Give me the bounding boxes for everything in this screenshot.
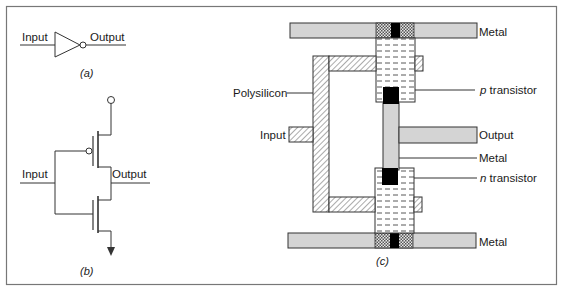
- polysilicon-vertical: [313, 56, 329, 212]
- polysilicon-top-arm: [329, 56, 376, 71]
- metal-output-arm: [399, 127, 477, 143]
- panel-a-input-label: Input: [22, 31, 48, 43]
- panel-b: Input Output (b): [20, 97, 150, 278]
- label-metal-top: Metal: [479, 26, 507, 38]
- panel-a: Input Output (a): [20, 31, 126, 79]
- p-contact: [383, 87, 399, 104]
- polysilicon-input-stub: [289, 127, 313, 142]
- panel-a-output-label: Output: [90, 31, 125, 43]
- label-n-transistor: n transistor: [480, 172, 537, 184]
- inverter-triangle-icon: [55, 32, 80, 57]
- vdd-terminal-icon: [108, 97, 115, 104]
- panel-b-caption: (b): [80, 265, 94, 277]
- inverter-bubble-icon: [80, 42, 86, 48]
- n-contact: [382, 168, 398, 185]
- panel-c-caption: (c): [376, 255, 389, 267]
- metal-output-vertical: [383, 103, 399, 170]
- label-p-transistor: p transistor: [479, 84, 537, 96]
- pmos-gate-bubble-icon: [86, 148, 92, 154]
- label-output: Output: [479, 129, 514, 141]
- panel-b-output-label: Output: [112, 168, 147, 180]
- panel-b-input-label: Input: [22, 168, 48, 180]
- label-metal-mid: Metal: [479, 152, 507, 164]
- figure-canvas: Input Output (a) Input Output: [0, 0, 562, 288]
- ground-arrow-icon: [107, 247, 115, 256]
- label-metal-bottom: Metal: [479, 236, 507, 248]
- panel-a-caption: (a): [80, 67, 94, 79]
- polysilicon-bottom-arm: [329, 197, 375, 212]
- panel-c: Metal Polysilicon p transistor Input Out…: [233, 23, 537, 267]
- label-input: Input: [260, 129, 286, 141]
- label-polysilicon: Polysilicon: [233, 87, 287, 99]
